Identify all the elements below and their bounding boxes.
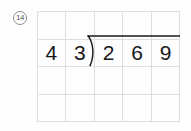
grid-cell[interactable]	[152, 12, 180, 40]
grid-cell[interactable]	[66, 67, 94, 95]
grid-cell[interactable]	[95, 40, 123, 68]
grid-cell[interactable]	[152, 95, 180, 123]
answer-grid	[37, 11, 180, 122]
grid-cell[interactable]	[38, 95, 66, 123]
grid-cell[interactable]	[95, 12, 123, 40]
grid-cell[interactable]	[123, 95, 151, 123]
problem-number-badge: 14	[13, 11, 27, 25]
grid-cell[interactable]	[95, 95, 123, 123]
grid-cell[interactable]	[95, 67, 123, 95]
math-worksheet-problem: 14 4 3 2 6 9	[0, 0, 191, 131]
grid-cell[interactable]	[123, 40, 151, 68]
grid-cell[interactable]	[66, 40, 94, 68]
grid-cell[interactable]	[152, 67, 180, 95]
grid-cell[interactable]	[123, 12, 151, 40]
grid-cell[interactable]	[152, 40, 180, 68]
grid-cell[interactable]	[66, 12, 94, 40]
grid-cell[interactable]	[66, 95, 94, 123]
grid-cell[interactable]	[38, 12, 66, 40]
grid-cell[interactable]	[38, 67, 66, 95]
grid-cell[interactable]	[38, 40, 66, 68]
grid-cell[interactable]	[123, 67, 151, 95]
